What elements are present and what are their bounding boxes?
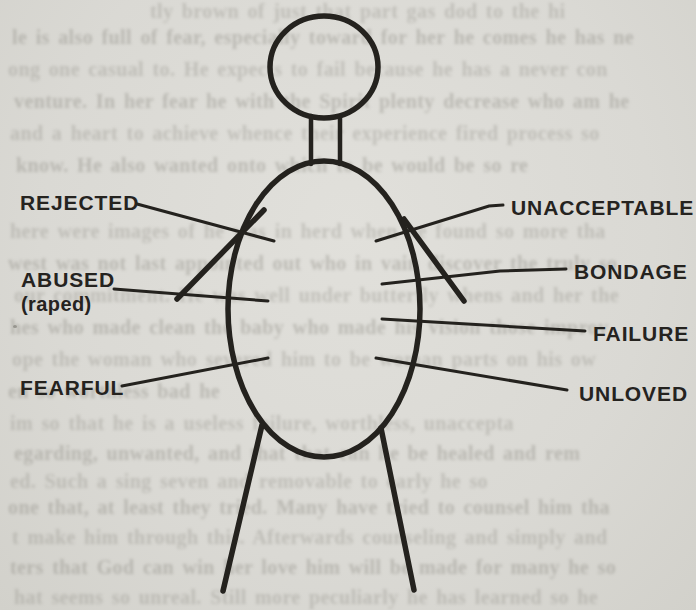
neck-outline	[311, 116, 340, 164]
label-unloved: UNLOVED	[579, 382, 688, 406]
failure-pointer-line	[382, 319, 585, 331]
head-circle	[270, 16, 378, 118]
fearful-pointer-line	[122, 358, 268, 386]
label-unacceptable: UNACCEPTABLE	[511, 196, 694, 220]
torso-oval	[228, 161, 420, 457]
left-leg-line	[223, 425, 262, 591]
label-abused-main: ABUSED	[21, 268, 115, 291]
label-fearful: FEARFUL	[20, 376, 124, 400]
label-abused: ABUSED (raped)	[21, 268, 115, 316]
scanned-book-page: tly brown of just that part gas dod to t…	[0, 0, 696, 610]
label-bondage: BONDAGE	[574, 260, 688, 284]
label-abused-sub: (raped)	[21, 293, 115, 316]
abused-pointer-line	[114, 289, 268, 301]
right-leg-line	[381, 428, 414, 590]
left-arm-line	[177, 210, 264, 299]
label-failure: FAILURE	[593, 322, 689, 346]
label-rejected: REJECTED	[20, 191, 139, 215]
bondage-pointer-line	[382, 269, 566, 284]
